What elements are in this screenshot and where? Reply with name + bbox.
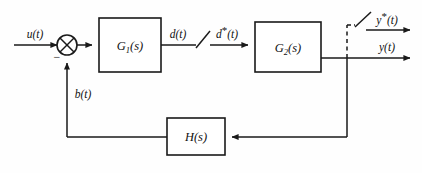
signal-label-u: u(t): [27, 28, 44, 41]
signal-label-d: d(t): [170, 28, 187, 41]
signal-label-d-star: d*(t): [216, 24, 238, 41]
block-g2-label-base: G: [275, 41, 284, 55]
signal-label-y-star-paren: (t): [387, 14, 398, 27]
signal-label-d-star-paren: (t): [227, 28, 238, 41]
signal-label-y: y(t): [378, 41, 395, 54]
block-h-label: H(s): [184, 130, 207, 144]
summing-junction-minus-sign: −: [54, 50, 61, 64]
block-g1-label-base: G: [117, 39, 126, 53]
signal-label-b: b(t): [75, 88, 92, 101]
block-diagram-canvas: G1(s) G2(s) H(s) u(t) − b(t) d(t) d*(t) …: [0, 0, 422, 173]
block-g2-label: G2(s): [275, 41, 301, 57]
sampler-switch-d: [196, 31, 210, 48]
sampler-y-blade: [355, 12, 371, 27]
diagram-svg: G1(s) G2(s) H(s) u(t) − b(t) d(t) d*(t) …: [0, 0, 422, 173]
block-g1-label: G1(s): [117, 39, 143, 55]
sampler-switch-y: [347, 12, 371, 58]
block-g1-label-tail: (s): [130, 39, 143, 53]
sampler-d-blade: [196, 31, 210, 48]
block-g2-label-tail: (s): [288, 41, 301, 55]
block-h-label-tail: (s): [194, 130, 207, 144]
signal-label-y-star: y*(t): [375, 10, 398, 27]
